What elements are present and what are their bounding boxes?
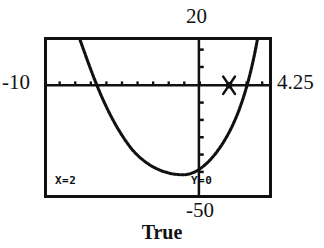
window-xmin-label: -10: [2, 72, 30, 93]
graph-svg: [47, 40, 269, 195]
calculator-screen: X=2 Y=0: [44, 37, 272, 198]
trace-y-readout: Y=0: [191, 175, 212, 186]
screenshot-root: 20 -10 4.25 -50: [0, 0, 324, 248]
window-ymin-label: -50: [186, 200, 214, 221]
figure-caption: True: [0, 222, 324, 242]
parabola-curve: [80, 40, 257, 175]
trace-x-readout: X=2: [55, 175, 76, 186]
graph-plot-area: [47, 40, 269, 195]
window-xmax-label: 4.25: [277, 72, 314, 93]
window-ymax-label: 20: [186, 6, 207, 27]
